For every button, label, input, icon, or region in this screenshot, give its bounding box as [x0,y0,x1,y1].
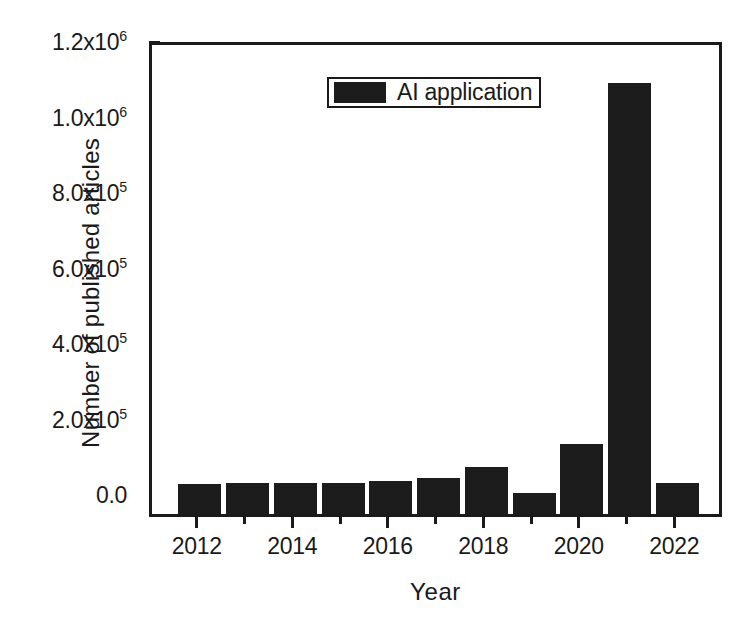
chart-figure: Number of published articles 0.02.0x1054… [0,0,754,618]
y-tick-label-3: 6.0x105 [52,255,127,282]
x-tick-major-5 [673,517,676,528]
x-axis-title: Year [149,578,722,606]
bar-2016 [369,481,412,514]
y-tick-label-0: 0.0 [96,482,127,509]
bar-2019 [513,493,556,514]
x-tick-minor-1 [339,517,342,524]
x-tick-major-4 [577,517,580,528]
x-tick-minor-4 [625,517,628,524]
x-tick-label-3: 2018 [458,533,508,560]
bar-2021 [608,83,651,514]
bar-2018 [465,467,508,514]
x-tick-minor-0 [243,517,246,524]
bar-2015 [322,483,365,514]
x-tick-label-5: 2022 [649,533,699,560]
bar-2020 [560,444,603,514]
legend-label-ai-application: AI application [397,79,532,106]
x-tick-minor-3 [530,517,533,524]
plot-frame [149,42,722,517]
x-tick-minor-2 [434,517,437,524]
x-tick-major-2 [386,517,389,528]
x-tick-major-3 [482,517,485,528]
y-axis-ticks: 0.02.0x1054.0x1056.0x1058.0x1051.0x1061.… [0,0,149,618]
bar-2017 [417,478,460,514]
y-tick-label-2: 4.0x105 [52,331,127,358]
x-tick-label-2: 2016 [363,533,413,560]
x-tick-major-1 [291,517,294,528]
bar-2013 [226,483,269,514]
x-tick-major-0 [195,517,198,528]
y-tick-label-4: 8.0x105 [52,180,127,207]
legend-swatch-ai-application [334,82,386,103]
bar-2014 [274,483,317,514]
bar-2022 [656,483,699,514]
bar-2012 [178,484,221,514]
legend: AI application [327,77,541,108]
plot-area [152,45,719,514]
y-tick-label-5: 1.0x106 [52,104,127,131]
x-tick-label-0: 2012 [172,533,222,560]
y-tick-label-1: 2.0x105 [52,406,127,433]
x-tick-label-4: 2020 [554,533,604,560]
y-tick-label-6: 1.2x106 [52,29,127,56]
x-tick-label-1: 2014 [267,533,317,560]
